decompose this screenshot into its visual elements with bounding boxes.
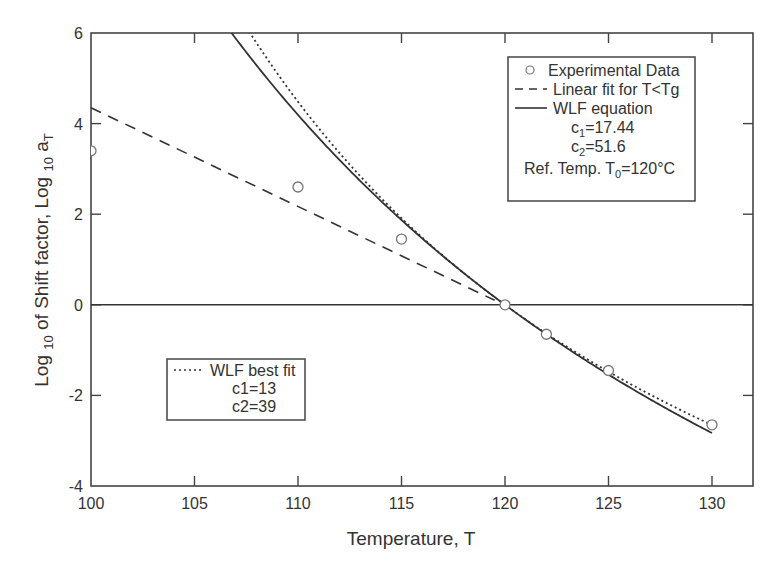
data-point-marker — [86, 146, 96, 156]
data-point-marker — [541, 329, 551, 339]
y-tick-label: -2 — [69, 387, 83, 404]
x-tick-label: 100 — [78, 495, 105, 512]
y-tick-label: 2 — [74, 206, 83, 223]
x-tick-label: 125 — [595, 495, 622, 512]
x-tick-label: 110 — [285, 495, 311, 512]
legend-param-best-c2: c2=39 — [232, 398, 276, 415]
x-tick-label: 115 — [389, 495, 415, 512]
x-tick-label: 105 — [181, 495, 208, 512]
chart-svg: 100105110115120125130 -4-20246 Temperatu… — [0, 0, 780, 578]
legend-label-linear-fit: Linear fit for T<Tg — [553, 81, 679, 98]
wlf-shift-factor-chart: 100105110115120125130 -4-20246 Temperatu… — [0, 0, 780, 578]
legend-main: Experimental Data Linear fit for T<Tg WL… — [508, 57, 695, 201]
legend-label-wlf-best-fit: WLF best fit — [210, 362, 296, 379]
linear-fit-dashed-line — [91, 108, 495, 301]
legend-label-wlf-equation: WLF equation — [553, 100, 653, 117]
legend-secondary: WLF best fit c1=13 c2=39 — [167, 359, 305, 420]
x-tick-label: 120 — [492, 495, 519, 512]
legend-label-experimental: Experimental Data — [548, 62, 680, 79]
data-point-marker — [500, 300, 510, 310]
x-axis-label: Temperature, T — [347, 528, 476, 549]
y-axis-label: Log 10 of Shift factor, Log 10 aT — [31, 133, 56, 387]
y-tick-label: 6 — [74, 25, 83, 42]
legend-param-best-c1: c1=13 — [232, 380, 276, 397]
y-tick-label: 0 — [74, 297, 83, 314]
data-point-marker — [707, 420, 717, 430]
y-tick-label: -4 — [69, 478, 83, 495]
y-tick-label: 4 — [74, 116, 83, 133]
x-tick-label: 130 — [699, 495, 726, 512]
data-point-marker — [397, 234, 407, 244]
data-point-marker — [604, 365, 614, 375]
data-point-marker — [293, 182, 303, 192]
